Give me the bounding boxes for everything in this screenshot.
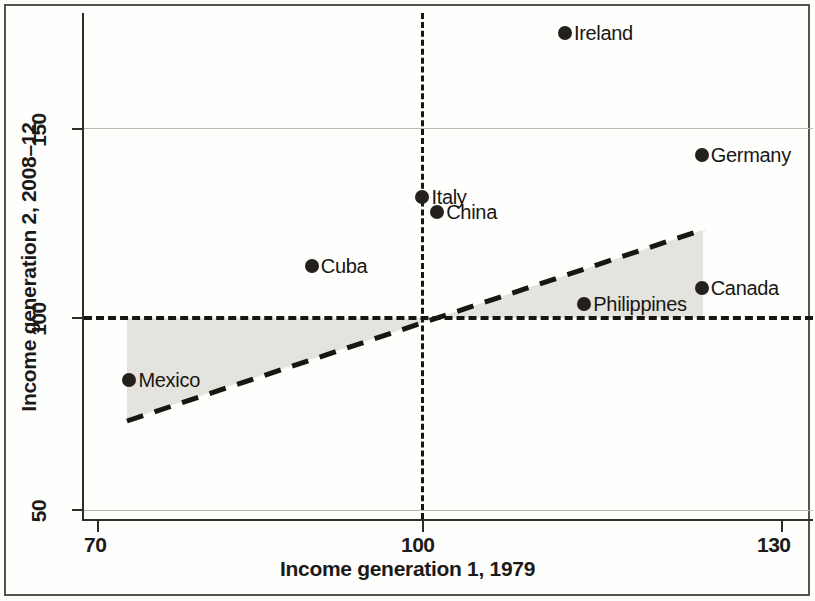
data-point-marker [577, 297, 591, 311]
x-tick-mark-70 [97, 521, 99, 532]
y-axis-spine [82, 13, 84, 521]
data-point-label: Germany [711, 144, 791, 167]
data-point-label: Canada [711, 277, 779, 300]
x-tick-mark-130 [781, 521, 783, 532]
scatter-plot-figure: 150 100 50 70 100 130 Income generation … [0, 0, 815, 601]
data-point-label: Philippines [593, 293, 686, 316]
reference-line-horizontal-100 [84, 316, 813, 320]
y-tick-mark-150 [72, 128, 84, 130]
y-axis-title: Income generation 2, 2008–12 [17, 17, 41, 517]
data-point-marker [305, 259, 319, 273]
data-point-label: Mexico [138, 369, 200, 392]
gridline-y-50 [84, 510, 813, 511]
data-point-label: Ireland [574, 22, 633, 45]
x-tick-label-70: 70 [84, 533, 106, 557]
data-point-marker [695, 148, 709, 162]
reference-line-vertical-100 [421, 13, 424, 519]
gridline-y-150 [84, 128, 813, 129]
data-point-marker [558, 26, 572, 40]
x-axis-spine [82, 519, 813, 521]
x-tick-mark-100 [422, 521, 424, 532]
x-tick-label-100: 100 [401, 533, 435, 557]
x-tick-label-130: 130 [757, 533, 791, 557]
data-point-label: China [446, 201, 497, 224]
x-axis-title: Income generation 1, 1979 [0, 557, 815, 581]
data-point-label: Cuba [321, 255, 368, 278]
y-tick-mark-50 [72, 509, 84, 511]
y-tick-mark-100 [72, 317, 84, 319]
